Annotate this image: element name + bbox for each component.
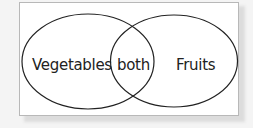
both-label: both	[117, 56, 150, 74]
venn-diagram: Vegetables both Fruits	[0, 0, 253, 128]
vegetables-label: Vegetables	[32, 56, 112, 74]
fruits-label: Fruits	[176, 56, 216, 74]
